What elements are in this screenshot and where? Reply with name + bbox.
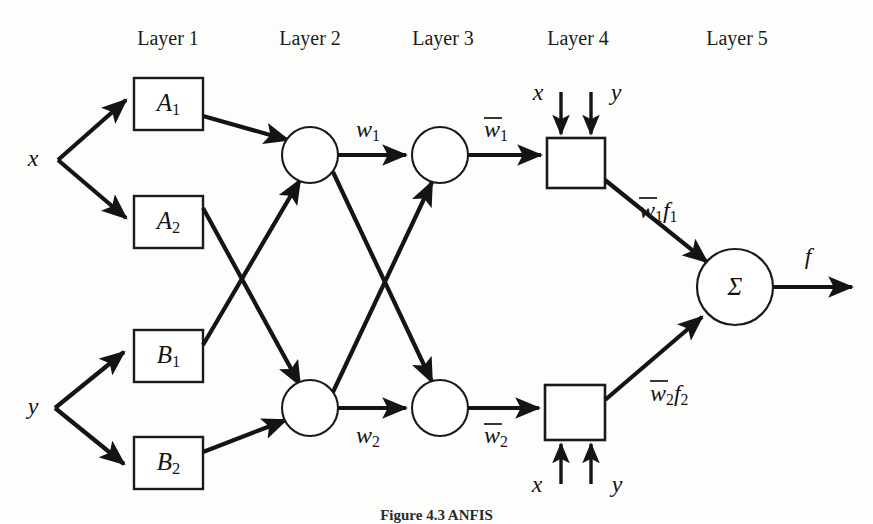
input-label-y: y <box>26 393 39 419</box>
layer2-node-bottom[interactable] <box>282 380 338 436</box>
link-B1-to-node-pi1 <box>203 180 300 345</box>
calc-box-bottom-input-x: x <box>531 471 543 497</box>
input-label-x: x <box>27 145 39 171</box>
link-A2-to-node-pi2 <box>203 208 300 385</box>
figure-caption: Figure 4.3 ANFIS <box>0 507 873 524</box>
calc-box-bottom[interactable] <box>545 385 605 440</box>
link-y-to-B1 <box>55 352 124 408</box>
link-A1-to-node-pi1 <box>203 116 288 140</box>
layer3-node-top[interactable] <box>412 127 468 183</box>
weight-label-wbar2: w2 <box>484 422 508 450</box>
link-B2-to-node-pi2 <box>203 420 286 452</box>
layer-header-1: Layer 1 <box>137 27 199 50</box>
svg-text:w2f2: w2f2 <box>650 380 689 408</box>
weight-label-w2: w2 <box>356 422 380 450</box>
weight-label-wbar1: w1 <box>484 116 508 144</box>
svg-text:w2: w2 <box>484 422 508 450</box>
output-label-f: f <box>805 243 815 269</box>
link-x-to-A2 <box>58 160 126 218</box>
calc-box-top-input-y: y <box>609 79 622 105</box>
svg-text:w1f1: w1f1 <box>639 197 678 225</box>
output-label-wbar1f1: w1f1 <box>639 197 678 225</box>
svg-text:w1: w1 <box>484 116 508 144</box>
link-node-pi2-to-norm1 <box>333 182 432 392</box>
layer-header-5: Layer 5 <box>706 27 768 50</box>
calc-box-top-input-x: x <box>532 79 544 105</box>
weight-label-w1: w1 <box>356 116 380 144</box>
link-y-to-B2 <box>55 408 124 464</box>
layer-header-3: Layer 3 <box>412 27 474 50</box>
layer2-node-top[interactable] <box>282 127 338 183</box>
layer3-node-bottom[interactable] <box>412 380 468 436</box>
layer-header-4: Layer 4 <box>547 27 609 50</box>
output-label-wbar2f2: w2f2 <box>650 380 689 408</box>
link-x-to-A1 <box>58 100 126 160</box>
link-node-pi1-to-norm2 <box>333 172 432 382</box>
calc-box-bottom-input-y: y <box>610 471 623 497</box>
sum-node-symbol: Σ <box>727 273 743 300</box>
layer-header-2: Layer 2 <box>279 27 341 50</box>
calc-box-top[interactable] <box>547 138 605 188</box>
